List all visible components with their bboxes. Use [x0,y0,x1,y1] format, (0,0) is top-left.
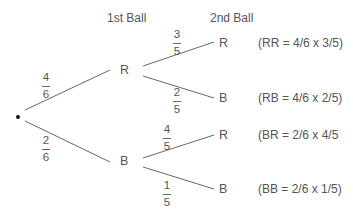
prob-B-R: 45 [163,124,171,152]
prob-R-B: 25 [173,87,181,115]
branch-root-R [25,70,110,110]
outcome-BR: (BR = 2/6 x 4/5 [258,129,338,141]
node-second-RB: B [219,92,227,105]
node-second-BR: R [219,129,228,142]
prob-root-R: 46 [42,72,50,100]
branch-root-B [25,121,110,162]
prob-R-R: 35 [173,29,181,57]
outcome-RB: (RB = 4/6 x 2/5) [258,92,342,104]
node-first-R: R [120,64,129,77]
header-second-ball: 2nd Ball [210,12,253,24]
node-second-BB: B [219,183,227,196]
outcome-BB: (BB = 2/6 x 1/5) [258,183,342,195]
node-first-B: B [120,155,128,168]
branch-B-R [143,135,214,158]
prob-B-B: 15 [163,180,171,208]
branch-B-B [143,167,214,189]
prob-root-B: 26 [42,135,50,163]
header-first-ball: 1st Ball [107,12,146,24]
root-dot [16,115,20,119]
outcome-RR: (RR = 4/6 x 3/5) [258,37,343,49]
node-second-RR: R [219,37,228,50]
